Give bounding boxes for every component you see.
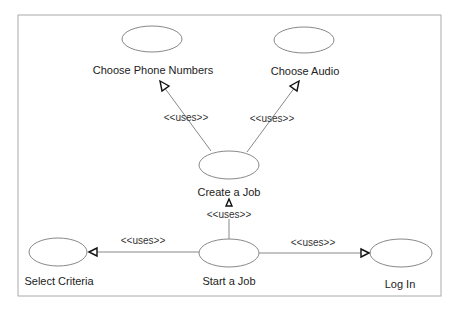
use-case-select-criteria[interactable]: [29, 238, 87, 266]
label-choose-phone-numbers: Choose Phone Numbers: [93, 64, 214, 76]
label-log-in: Log In: [385, 278, 416, 290]
uses-label-create-audio: <<uses>>: [250, 113, 295, 124]
uses-label-start-create: <<uses>>: [207, 209, 252, 220]
label-start-a-job: Start a Job: [202, 275, 255, 287]
label-choose-audio: Choose Audio: [271, 65, 340, 77]
uses-label-start-criteria: <<uses>>: [121, 235, 166, 246]
use-case-start-a-job[interactable]: [199, 239, 259, 267]
label-create-a-job: Create a Job: [198, 186, 261, 198]
uses-label-start-login: <<uses>>: [291, 237, 336, 248]
label-select-criteria: Select Criteria: [24, 275, 94, 287]
uses-label-create-phone: <<uses>>: [164, 112, 209, 123]
use-case-choose-audio[interactable]: [274, 27, 334, 53]
use-case-choose-phone-numbers[interactable]: [122, 26, 182, 52]
use-case-log-in[interactable]: [370, 239, 432, 267]
use-case-diagram: Choose Phone Numbers Choose Audio Create…: [0, 0, 459, 312]
use-case-create-a-job[interactable]: [199, 151, 259, 179]
